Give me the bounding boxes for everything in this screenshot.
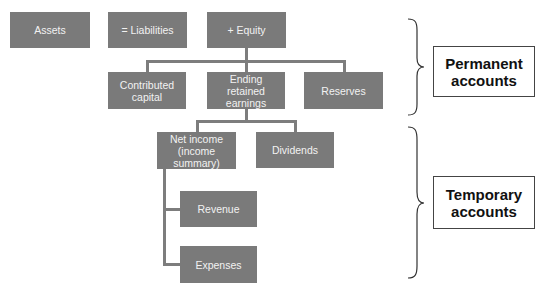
assets-node: Assets <box>10 12 90 48</box>
equity-node: + Equity <box>207 12 286 48</box>
connector-row3-horizontal <box>196 120 297 123</box>
connector-to-net-income <box>196 120 199 132</box>
temporary-accounts-label: Temporary accounts <box>433 176 535 229</box>
temporary-brace-icon <box>406 126 426 280</box>
connector-to-dividends <box>294 120 297 132</box>
permanent-brace-icon <box>406 18 426 118</box>
expenses-node: Expenses <box>180 246 257 283</box>
permanent-accounts-label: Permanent accounts <box>433 46 535 97</box>
connector-to-revenue <box>163 208 180 211</box>
connector-row2-horizontal <box>146 60 346 63</box>
connector-to-contributed <box>146 60 149 72</box>
connector-to-reserves <box>343 60 346 72</box>
contributed-capital-node: Contributed capital <box>108 72 186 109</box>
liabilities-node: = Liabilities <box>108 12 187 48</box>
reserves-node: Reserves <box>304 72 383 109</box>
connector-to-expenses <box>163 263 180 266</box>
connector-net-income-vertical <box>163 169 166 266</box>
ending-retained-earnings-node: Ending retained earnings <box>207 72 285 109</box>
revenue-node: Revenue <box>180 191 257 227</box>
net-income-node: Net income (income summary) <box>157 132 236 169</box>
dividends-node: Dividends <box>256 132 334 168</box>
